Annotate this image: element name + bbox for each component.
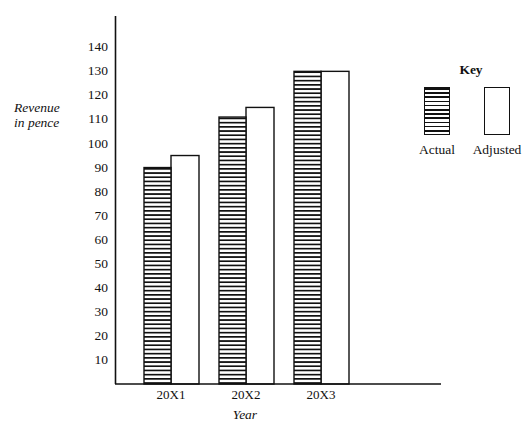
legend-title: Key [418, 62, 524, 77]
legend-label-adjusted: Adjusted [473, 142, 522, 157]
x-tick-label: 20X1 [157, 388, 186, 402]
bar-adjusted [321, 71, 349, 384]
bar-actual [144, 168, 171, 384]
x-tick-label: 20X3 [307, 388, 336, 402]
legend: Key Actual Adjusted [418, 62, 524, 162]
bar-chart: Revenue in pence 10203040506070809010011… [0, 0, 527, 433]
bars-layer [144, 71, 349, 384]
white-swatch [484, 87, 510, 135]
bar-actual [219, 117, 246, 384]
x-tick-label: 20X2 [232, 388, 261, 402]
hatched-swatch [424, 87, 450, 135]
bar-actual [294, 71, 321, 384]
x-axis-title: Year [200, 407, 290, 422]
x-axis-tick-labels: 20X120X220X3 [0, 388, 527, 408]
bar-adjusted [246, 107, 274, 384]
bar-adjusted [171, 156, 199, 384]
legend-label-actual: Actual [419, 142, 455, 157]
